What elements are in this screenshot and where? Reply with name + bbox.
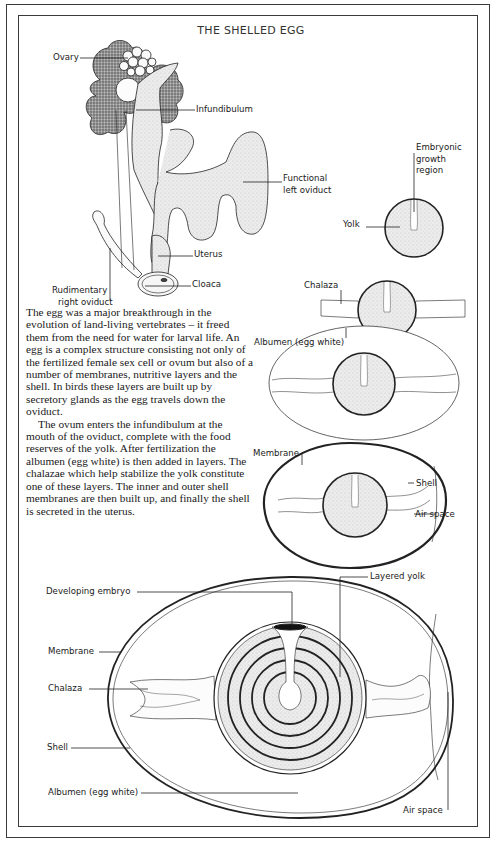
label-membrane-large: Membrane	[48, 646, 94, 657]
label-uterus: Uterus	[194, 249, 222, 260]
label-membrane: Membrane	[253, 448, 299, 459]
label-chalaza: Chalaza	[304, 280, 338, 291]
label-functional-oviduct-2: left oviduct	[283, 185, 331, 196]
label-embryonic-2: growth	[416, 154, 446, 165]
stage-shell	[264, 443, 446, 568]
body-text: The egg was a major breakthrough in the …	[26, 306, 254, 517]
label-developing-embryo: Developing embryo	[46, 586, 130, 597]
label-shell: Shell	[416, 478, 437, 489]
label-infundibulum: Infundibulum	[196, 104, 253, 115]
label-cloaca: Cloaca	[192, 279, 221, 290]
label-albumen-large: Albumen (egg white)	[48, 787, 138, 798]
label-layered-yolk: Layered yolk	[370, 571, 425, 582]
label-embryonic-1: Embryonic	[416, 142, 462, 153]
label-embryonic-3: region	[416, 165, 443, 176]
body-paragraph-2: The ovum enters the infundibulum at the …	[26, 418, 254, 517]
reproductive-tract-illustration	[86, 41, 268, 297]
label-chalaza-large: Chalaza	[48, 683, 82, 694]
label-air-space-large: Air space	[403, 805, 443, 816]
label-rudimentary-1: Rudimentary	[52, 285, 107, 296]
label-functional-oviduct-1: Functional	[283, 173, 327, 184]
label-albumen: Albumen (egg white)	[254, 337, 344, 348]
body-paragraph-1: The egg was a major breakthrough in the …	[26, 306, 254, 418]
label-shell-large: Shell	[47, 742, 68, 753]
label-air-space: Air space	[415, 509, 455, 520]
label-yolk: Yolk	[343, 219, 360, 230]
label-ovary: Ovary	[53, 52, 79, 63]
large-egg-cross-section	[108, 577, 453, 818]
